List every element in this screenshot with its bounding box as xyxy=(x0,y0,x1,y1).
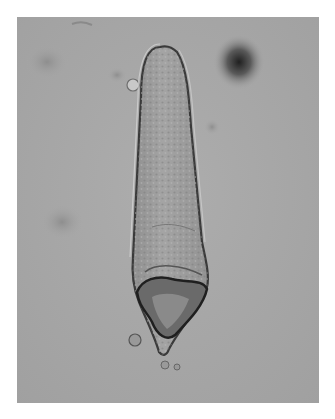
dark-particle xyxy=(213,34,265,90)
bubble xyxy=(127,79,139,91)
faint-spot xyxy=(204,119,220,135)
faint-spot xyxy=(25,44,69,80)
droplet xyxy=(129,334,141,346)
faint-spot xyxy=(40,204,84,240)
droplet xyxy=(174,364,180,370)
micrograph xyxy=(17,17,319,403)
micrograph-svg xyxy=(17,17,319,403)
droplet xyxy=(161,361,169,369)
faint-spot xyxy=(107,67,127,83)
